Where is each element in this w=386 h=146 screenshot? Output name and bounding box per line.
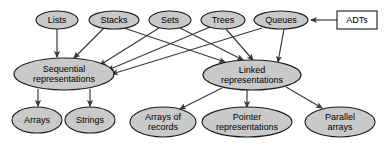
node-linked[interactable]: Linkedrepresentations (203, 60, 301, 90)
node-label-arrays: Arrays (24, 115, 51, 125)
node-label-pointer: representations (216, 122, 279, 132)
node-label-linked: representations (221, 75, 284, 85)
node-label-parallel: arrays (327, 122, 353, 132)
edge-linked-to-arrays_of_records (180, 88, 222, 109)
node-parallel[interactable]: Parallelarrays (305, 107, 375, 137)
node-sequential[interactable]: Sequentialrepresentations (14, 58, 114, 90)
adt-hierarchy-diagram: ADTsListsStacksSetsTreesQueuesSequential… (0, 0, 386, 146)
node-queues[interactable]: Queues (254, 11, 308, 29)
node-label-linked: Linked (239, 65, 266, 75)
edge-stacks-to-sequential (74, 28, 104, 58)
edge-queues-to-linked (278, 29, 284, 62)
node-arrays[interactable]: Arrays (12, 107, 62, 133)
node-arrays_of_records[interactable]: Arrays ofrecords (130, 107, 196, 137)
node-trees[interactable]: Trees (201, 11, 245, 29)
node-label-pointer: Pointer (233, 112, 262, 122)
node-label-adts: ADTs (346, 15, 368, 25)
node-pointer[interactable]: Pointerrepresentations (202, 107, 292, 137)
edge-trees-to-linked (226, 29, 253, 60)
node-sets[interactable]: Sets (149, 11, 191, 29)
node-label-queues: Queues (265, 15, 297, 25)
edge-linked-to-parallel (286, 87, 322, 108)
node-lists[interactable]: Lists (36, 11, 78, 29)
node-label-strings: Strings (76, 115, 105, 125)
nodes-layer: ADTsListsStacksSetsTreesQueuesSequential… (12, 11, 377, 137)
node-stacks[interactable]: Stacks (89, 11, 139, 29)
node-label-sequential: Sequential (43, 64, 86, 74)
node-label-parallel: Parallel (325, 112, 355, 122)
node-label-trees: Trees (212, 15, 235, 25)
node-label-lists: Lists (48, 15, 67, 25)
node-label-sets: Sets (161, 15, 180, 25)
node-adts[interactable]: ADTs (337, 11, 377, 29)
node-label-sequential: representations (33, 74, 96, 84)
node-label-arrays_of_records: records (148, 122, 179, 132)
edge-sets-to-sequential (100, 28, 159, 65)
node-label-stacks: Stacks (100, 15, 128, 25)
node-label-arrays_of_records: Arrays of (145, 112, 182, 122)
node-strings[interactable]: Strings (65, 107, 115, 133)
diagram-canvas: ADTsListsStacksSetsTreesQueuesSequential… (0, 0, 386, 146)
